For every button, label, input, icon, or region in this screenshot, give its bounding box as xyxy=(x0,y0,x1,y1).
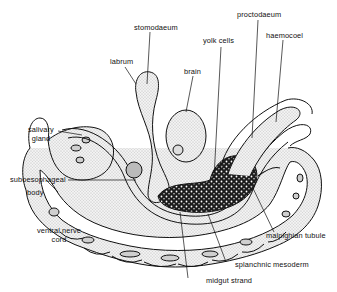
label-malpighian-tubule: malpighian tubule xyxy=(266,231,326,240)
label-labrum: labrum xyxy=(110,57,133,66)
label-ventral-nerve-cord: ventral nerve cord xyxy=(32,226,86,244)
embryo-diagram xyxy=(0,0,337,292)
brain xyxy=(166,110,206,162)
label-proctodaeum: proctodaeum xyxy=(237,10,281,19)
label-salivary-gland: salivary gland xyxy=(24,125,58,143)
label-stomodaeum: stomodaeum xyxy=(134,23,178,32)
label-haemocoel: haemocoel xyxy=(266,31,303,40)
label-brain: brain xyxy=(184,67,201,76)
label-splanchnic-mesoderm: splanchnic mesoderm xyxy=(235,260,309,269)
label-yolk-cells: yolk cells xyxy=(203,36,234,45)
label-midgut-strand: midgut strand xyxy=(206,276,252,285)
suboesophageal-body xyxy=(126,162,142,178)
label-suboesophageal-body: suboesophageal body xyxy=(10,175,66,197)
